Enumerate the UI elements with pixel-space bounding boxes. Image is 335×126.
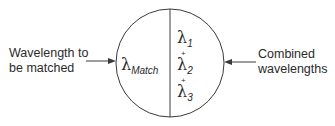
label-line: wavelengths	[258, 62, 328, 77]
right-arrow-icon	[224, 59, 256, 65]
lambda-3: λ3	[177, 84, 193, 102]
lambda-1: λ1	[177, 30, 193, 48]
lambda-symbol: λ	[177, 28, 187, 47]
lambda-symbol: λ	[121, 55, 131, 74]
label-line: Combined	[258, 47, 328, 62]
label-line: be matched	[9, 61, 88, 76]
label-line: Wavelength to	[9, 46, 88, 61]
lambda-subscript: 1	[187, 38, 193, 49]
lambda-subscript: 3	[187, 92, 193, 103]
left-arrow-icon	[86, 58, 116, 64]
combined-wavelengths-label: Combined wavelengths	[258, 47, 328, 77]
lambda-match: λMatch	[121, 57, 158, 75]
lambda-subscript: 2	[187, 65, 193, 76]
lambda-symbol: λ	[177, 82, 187, 101]
lambda-subscript: Match	[131, 65, 158, 76]
lambda-symbol: λ	[177, 55, 187, 74]
input-wavelength-label: Wavelength to be matched	[9, 46, 88, 76]
lambda-2: λ2	[177, 57, 193, 75]
